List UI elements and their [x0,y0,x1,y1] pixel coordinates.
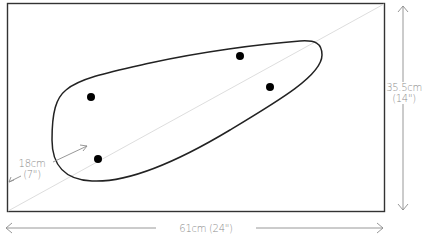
diagonal-label-line1: 18cm [12,158,52,169]
width-dimension-label: 61cm (24") [156,223,256,234]
diagonal-dimension-label: 18cm (7") [12,158,52,180]
diagram-canvas [0,0,422,235]
height-label-line1: 35.5cm [386,82,422,93]
dot-marker [236,52,244,60]
diagonal-guide-line [8,4,384,211]
dot-marker [266,83,274,91]
dot-marker [94,155,102,163]
height-dimension-arrow [398,6,408,210]
teardrop-shape [52,41,322,181]
dot-marker [87,93,95,101]
height-label-line2: (14") [386,93,422,104]
diagonal-label-line2: (7") [12,169,52,180]
height-dimension-label: 35.5cm (14") [386,82,422,104]
width-label-text: 61cm (24") [179,223,232,234]
